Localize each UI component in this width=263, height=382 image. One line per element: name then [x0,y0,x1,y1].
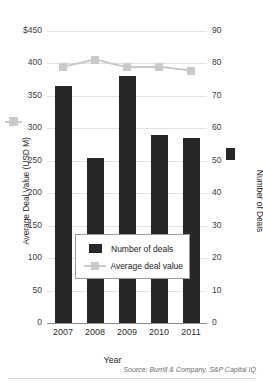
legend-label-number-of-deals: Number of deals [111,244,173,254]
legend-label-average-deal-value: Average deal value [110,261,183,271]
y-axis-right-tick: 50 [212,156,221,165]
line-marker-2010 [155,63,163,71]
number-of-deals-bar-icon [226,148,235,160]
y-axis-right-tick: 10 [212,286,221,295]
line-marker-2011 [187,67,195,75]
source-note: Source: Burrill & Company, S&P Capital I… [0,366,256,373]
line-marker-2009 [123,63,131,71]
y-axis-right-tick: 40 [212,188,221,197]
legend-swatch-bar [82,244,108,253]
legend-item-average-deal-value: Average deal value [82,257,183,274]
y-axis-left-tick: 0 [37,318,42,327]
y-axis-right-tick: 20 [212,253,221,262]
chart-legend: Number of deals Average deal value [75,234,190,279]
legend-swatch-line [82,261,107,270]
bar-swatch-icon [89,244,102,253]
y-axis-left-tick: 50 [33,286,42,295]
y-axis-left-tick: 100 [28,253,42,262]
legend-item-number-of-deals: Number of deals [82,240,183,257]
x-axis-tick-2011: 2011 [171,327,211,337]
y-axis-right-tick: 0 [212,318,217,327]
line-marker-icon [84,261,106,270]
average-deal-value-line-icon [9,117,18,126]
y-axis-left-tick: 250 [28,156,42,165]
y-axis-right-tick: 30 [212,221,221,230]
y-axis-left-tick: 400 [28,58,42,67]
y-axis-left-tick: 300 [28,123,42,132]
y-axis-right-tick: 90 [212,26,221,35]
y-axis-left-tick: 150 [28,221,42,230]
x-axis-title: Year [0,355,225,365]
line-marker-2008 [91,56,99,64]
average-deal-value-line [47,31,207,323]
y-axis-left-tick: $450 [23,26,42,35]
gridline [47,323,207,324]
y-axis-right-tick: 80 [212,58,221,67]
chart-container: Average Deal Value (USD M) Number of Dea… [0,0,263,382]
plot-area: 050100150200250300350400$450010203040506… [47,31,207,323]
y-axis-left-tick: 350 [28,91,42,100]
y-axis-right-title: Number of Deals [255,141,263,261]
bottom-divider [8,378,255,379]
y-axis-right-tick: 70 [212,91,221,100]
y-axis-right-tick: 60 [212,123,221,132]
y-axis-left-tick: 200 [28,188,42,197]
line-marker-2007 [59,63,67,71]
